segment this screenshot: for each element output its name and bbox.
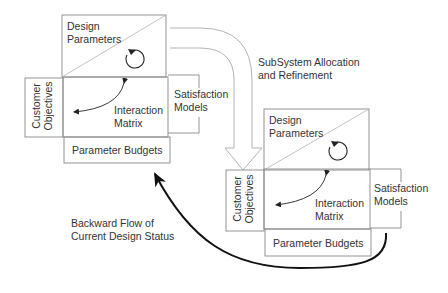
satisfaction-bracket-top (168, 75, 199, 88)
backward-flow-label: Backward Flow of Current Design Status (71, 217, 174, 243)
interaction-matrix-label: Interaction Matrix (114, 104, 163, 130)
subsystem-allocation-label: SubSystem Allocation and Refinement (258, 56, 360, 82)
satisfaction-bracket-bottom (168, 117, 199, 133)
cycle-icon (329, 141, 347, 160)
customer-objectives-label: Customer Objectives (30, 79, 54, 133)
satisfaction-models-label: Satisfaction Models (174, 88, 228, 114)
customer-objectives-label: Customer Objectives (231, 172, 255, 226)
satisfaction-bracket-top (370, 169, 401, 182)
satisfaction-models-label: Satisfaction Models (374, 182, 428, 208)
cycle-icon (126, 49, 144, 68)
parameter-budgets-label: Parameter Budgets (273, 237, 363, 250)
interaction-matrix-label: Interaction Matrix (315, 197, 364, 223)
design-parameters-label: Design Parameters (269, 114, 323, 140)
satisfaction-bracket-bottom (370, 211, 401, 228)
parameter-budgets-label: Parameter Budgets (72, 144, 162, 157)
design-parameters-label: Design Parameters (67, 20, 121, 46)
